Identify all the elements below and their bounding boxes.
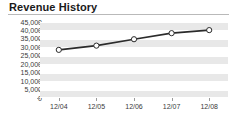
x-axis-tick-label: 12/06 xyxy=(118,103,150,110)
x-axis-tick-mark xyxy=(172,98,173,101)
page-title: Revenue History xyxy=(9,1,97,13)
x-axis-tick-mark xyxy=(96,98,97,101)
x-axis-tick-mark xyxy=(134,98,135,101)
data-point-marker xyxy=(56,47,61,52)
chart-title-bar: Revenue History xyxy=(0,0,236,16)
data-point-marker xyxy=(131,37,136,42)
revenue-history-chart-widget: Revenue History 05,00010,00015,00020,000… xyxy=(0,0,236,117)
x-axis-tick-label: 12/07 xyxy=(156,103,188,110)
plot-area xyxy=(40,22,228,98)
x-axis-tick-mark xyxy=(59,98,60,101)
line-series-revenue xyxy=(40,22,228,98)
x-axis-tick-label: 12/08 xyxy=(193,103,225,110)
x-axis-tick-label: 12/04 xyxy=(43,103,75,110)
title-divider xyxy=(8,14,229,15)
data-point-marker xyxy=(94,43,99,48)
data-point-marker xyxy=(207,28,212,33)
y-axis-tick-mark xyxy=(37,98,40,99)
data-point-marker xyxy=(169,31,174,36)
x-axis-tick-label: 12/05 xyxy=(80,103,112,110)
x-axis-tick-mark xyxy=(209,98,210,101)
